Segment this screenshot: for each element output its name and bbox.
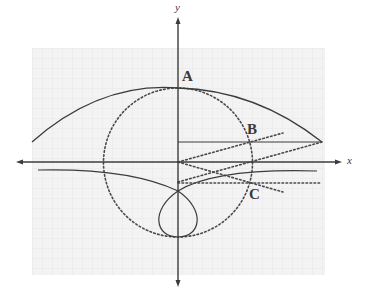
point-label-b: B	[247, 121, 257, 138]
x-axis-label: x	[347, 154, 352, 166]
x-axis-left-arrow	[16, 160, 23, 165]
y-axis-bottom-arrow	[176, 280, 181, 287]
y-axis-label: y	[175, 1, 180, 13]
point-label-c: C	[249, 186, 260, 203]
x-axis-right-arrow	[335, 160, 342, 165]
geometry-diagram	[0, 0, 365, 296]
y-axis-top-arrow	[176, 17, 181, 24]
point-label-a: A	[182, 68, 193, 85]
